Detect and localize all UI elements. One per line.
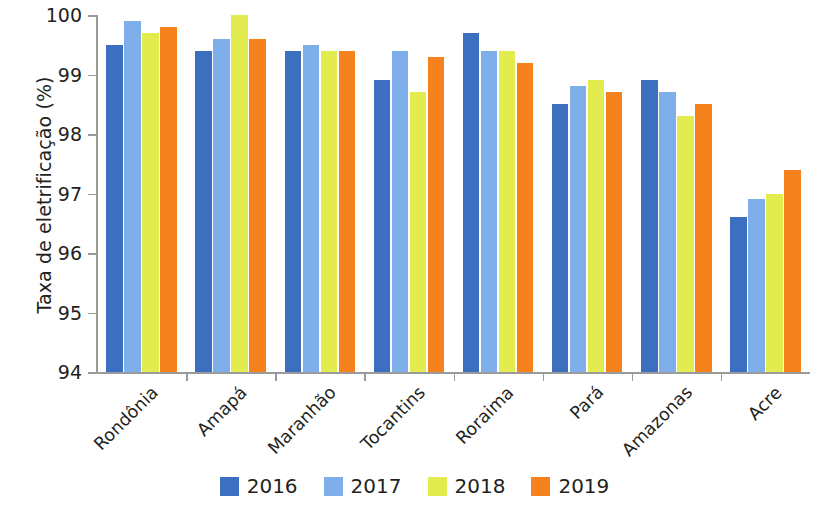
x-category-label: Roraima xyxy=(452,382,518,448)
legend-swatch-icon xyxy=(220,477,239,496)
y-tick-label: 94 xyxy=(22,361,82,383)
y-tick-mark xyxy=(88,194,96,196)
bar xyxy=(730,217,747,372)
y-tick-mark xyxy=(88,372,96,374)
bar xyxy=(641,80,658,372)
y-tick-mark xyxy=(88,134,96,136)
y-tick-label: 96 xyxy=(22,242,82,264)
bar xyxy=(142,33,159,372)
bar xyxy=(766,194,783,373)
bar xyxy=(106,45,123,372)
y-tick-mark xyxy=(88,253,96,255)
bar-chart: Taxa de eletrificação (%) 94959697989910… xyxy=(0,0,829,506)
bar xyxy=(499,51,516,372)
bar xyxy=(517,63,534,372)
bar xyxy=(481,51,498,372)
bar xyxy=(552,104,569,372)
y-tick-label: 98 xyxy=(22,123,82,145)
x-tick-mark xyxy=(632,372,634,381)
bar xyxy=(748,199,765,372)
bar xyxy=(231,15,248,372)
x-category-label: Acre xyxy=(744,382,786,424)
legend-item[interactable]: 2016 xyxy=(220,476,298,496)
bar xyxy=(249,39,266,372)
legend-item[interactable]: 2018 xyxy=(428,476,506,496)
bar xyxy=(321,51,338,372)
bar xyxy=(410,92,427,372)
y-tick-label: 99 xyxy=(22,64,82,86)
bar xyxy=(374,80,391,372)
x-category-label: Amazonas xyxy=(618,382,696,460)
x-tick-mark xyxy=(186,372,188,381)
bar xyxy=(659,92,676,372)
x-tick-mark xyxy=(364,372,366,381)
legend-swatch-icon xyxy=(324,477,343,496)
bar xyxy=(303,45,320,372)
legend-item[interactable]: 2019 xyxy=(531,476,609,496)
bar xyxy=(213,39,230,372)
bar xyxy=(124,21,141,372)
chart-legend: 2016201720182019 xyxy=(0,476,829,496)
bar xyxy=(428,57,445,372)
bar xyxy=(588,80,605,372)
y-tick-mark xyxy=(88,75,96,77)
legend-label: 2018 xyxy=(455,476,506,496)
x-category-label: Tocantins xyxy=(357,382,429,454)
bar xyxy=(392,51,409,372)
legend-item[interactable]: 2017 xyxy=(324,476,402,496)
x-category-label: Rondônia xyxy=(90,382,162,454)
x-category-label: Amapá xyxy=(193,382,251,440)
bar xyxy=(677,116,694,372)
y-tick-label: 100 xyxy=(22,4,82,26)
y-tick-mark xyxy=(88,313,96,315)
bar xyxy=(195,51,212,372)
plot-area xyxy=(97,15,810,372)
x-category-label: Maranhão xyxy=(264,382,340,458)
bar xyxy=(570,86,587,372)
legend-swatch-icon xyxy=(531,477,550,496)
legend-label: 2019 xyxy=(558,476,609,496)
y-tick-label: 97 xyxy=(22,183,82,205)
legend-swatch-icon xyxy=(428,477,447,496)
bar xyxy=(339,51,356,372)
legend-label: 2016 xyxy=(247,476,298,496)
bar xyxy=(784,170,801,372)
bar xyxy=(606,92,623,372)
x-tick-mark xyxy=(454,372,456,381)
legend-label: 2017 xyxy=(351,476,402,496)
x-tick-mark xyxy=(721,372,723,381)
y-tick-mark xyxy=(88,15,96,17)
x-tick-mark xyxy=(543,372,545,381)
y-tick-label: 95 xyxy=(22,302,82,324)
bar xyxy=(463,33,480,372)
bar xyxy=(285,51,302,372)
bar xyxy=(160,27,177,372)
x-tick-mark xyxy=(275,372,277,381)
bar xyxy=(695,104,712,372)
x-category-label: Pará xyxy=(566,382,607,423)
